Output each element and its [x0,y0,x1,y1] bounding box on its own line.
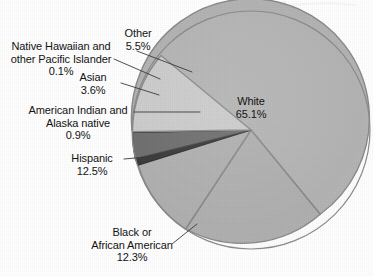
pie-outline [132,11,370,249]
slice-label-asian-name: Asian [79,71,106,83]
slice-label-other: Other 5.5% [110,27,166,52]
slice-label-white-value: 65.1% [222,108,280,121]
slice-label-black-name-2: African American [82,239,182,252]
slice-label-aian-name-2: Alaska native [24,117,132,130]
slice-label-hispanic-name: Hispanic [71,152,112,164]
slice-label-aian-value: 0.9% [24,129,132,142]
slice-label-american-indian-and-alaska-native: American Indian and Alaska native 0.9% [24,104,132,142]
slice-label-white: White 65.1% [222,95,280,120]
slice-label-black-value: 12.3% [82,251,182,264]
slice-label-other-name: Other [124,27,151,39]
slice-label-asian: Asian 3.6% [68,71,118,96]
slice-label-white-name: White [237,95,265,107]
slice-label-hispanic-value: 12.5% [62,165,122,178]
slice-label-black-or-african-american: Black or African American 12.3% [82,226,182,264]
slice-label-black-name-1: Black or [113,226,152,238]
slice-label-nhopi-name-2: other Pacific Islander [6,53,116,66]
slice-label-other-value: 5.5% [110,40,166,53]
slice-label-nhopi-name-1: Native Hawaiian and [12,40,111,52]
pie-chart: White 65.1% Other 5.5% Native Hawaiian a… [0,0,373,276]
slice-label-hispanic: Hispanic 12.5% [62,152,122,177]
slice-label-asian-value: 3.6% [68,84,118,97]
slice-label-aian-name-1: American Indian and [29,104,128,116]
